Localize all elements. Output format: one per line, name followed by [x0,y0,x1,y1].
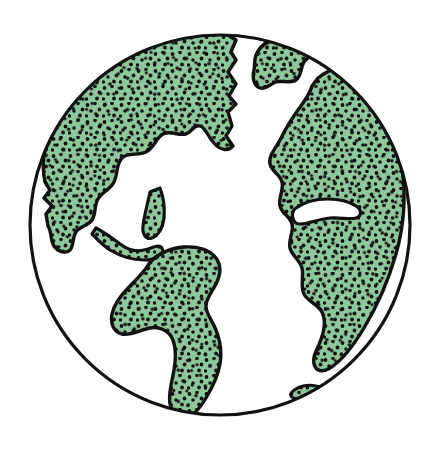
globe-illustration: Earth globe line drawing [0,0,441,453]
illustration-canvas: Earth globe line drawing [0,0,441,453]
